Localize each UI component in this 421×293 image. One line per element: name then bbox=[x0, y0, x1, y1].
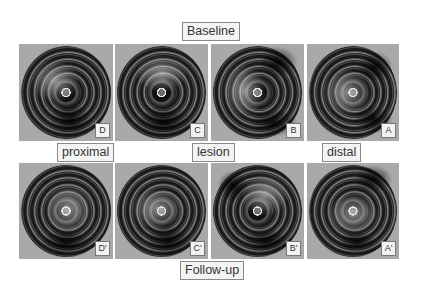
ivus-panel-a-prime: A' bbox=[307, 163, 399, 259]
ivus-panel-d-prime: D' bbox=[19, 163, 113, 259]
panel-tag: A bbox=[381, 123, 396, 138]
ivus-panel-a: A bbox=[307, 44, 399, 141]
panel-tag: B bbox=[286, 123, 301, 138]
ivus-panel-b-prime: B' bbox=[211, 163, 304, 259]
ivus-panel-d: D bbox=[19, 44, 113, 141]
ivus-panel-c: C bbox=[115, 44, 208, 141]
panel-tag: D' bbox=[95, 241, 110, 256]
ivus-panel-c-prime: C' bbox=[115, 163, 208, 259]
lesion-label: lesion bbox=[192, 143, 235, 162]
panel-tag: A' bbox=[381, 241, 396, 256]
distal-label: distal bbox=[322, 143, 361, 162]
ivus-panel-b: B bbox=[211, 44, 304, 141]
panel-tag: B' bbox=[286, 241, 301, 256]
proximal-label: proximal bbox=[57, 143, 114, 162]
followup-label: Follow-up bbox=[180, 261, 244, 280]
baseline-label: Baseline bbox=[182, 22, 240, 41]
panel-tag: C bbox=[190, 123, 205, 138]
panel-tag: C' bbox=[190, 241, 205, 256]
panel-tag: D bbox=[95, 123, 110, 138]
